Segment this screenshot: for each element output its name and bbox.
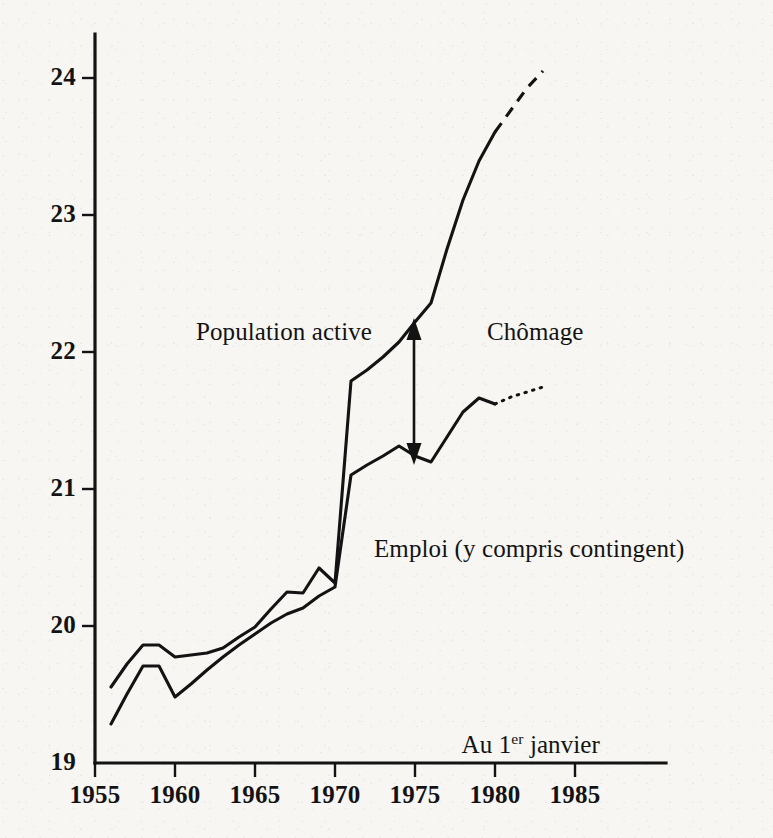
x-tick-label-1980: 1980	[455, 781, 535, 809]
x-axis-ticks	[95, 763, 575, 777]
x-tick-label-1960: 1960	[135, 781, 215, 809]
chart-figure: 24 23 22 21 20 19 1955 1960 1965 1970 19…	[0, 0, 773, 838]
chomage-double-arrow	[407, 318, 422, 465]
y-tick-label-21: 21	[24, 474, 76, 502]
y-tick-label-23: 23	[24, 200, 76, 228]
x-tick-label-1985: 1985	[535, 781, 615, 809]
series-population-active-projection	[495, 71, 543, 132]
chart-canvas	[0, 0, 773, 838]
x-axis-note-prefix: Au 1	[462, 731, 512, 758]
y-tick-label-19: 19	[24, 748, 76, 776]
x-tick-label-1955: 1955	[55, 781, 135, 809]
y-tick-label-24: 24	[24, 63, 76, 91]
y-tick-label-20: 20	[24, 611, 76, 639]
x-axis-note-superscript: er	[511, 730, 523, 747]
x-tick-label-1965: 1965	[215, 781, 295, 809]
x-axis-note: Au 1er janvier	[462, 731, 600, 759]
label-chomage: Chômage	[487, 318, 584, 346]
series-emploi-projection	[495, 387, 543, 404]
series-population-active	[111, 132, 495, 687]
x-tick-label-1970: 1970	[295, 781, 375, 809]
label-emploi: Emploi (y compris contingent)	[374, 535, 684, 563]
x-axis-note-suffix: janvier	[524, 731, 600, 758]
x-tick-label-1975: 1975	[375, 781, 455, 809]
y-tick-label-22: 22	[24, 337, 76, 365]
y-axis-ticks	[82, 78, 95, 626]
label-population-active: Population active	[196, 318, 372, 346]
